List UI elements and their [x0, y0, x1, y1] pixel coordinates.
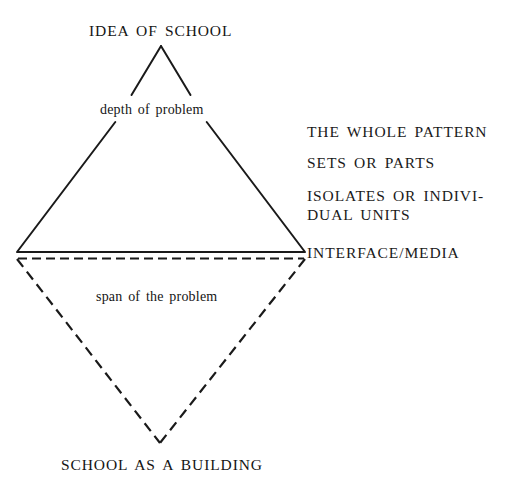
side-label-sets-or-parts: SETS OR PARTS: [307, 153, 435, 172]
triangle-right-side-lower: [207, 122, 305, 252]
side-label-line: INTERFACE/MEDIA: [307, 243, 460, 262]
side-label-interface-media: INTERFACE/MEDIA: [307, 243, 460, 262]
title-idea-of-school: IDEA OF SCHOOL: [89, 21, 232, 40]
side-label-isolates-individual-units: ISOLATES OR INDIVI- DUAL UNITS: [307, 186, 484, 224]
diamond-lower-right-edge-dashed: [160, 259, 305, 443]
label-span-of-problem: span of the problem: [92, 288, 221, 305]
side-label-line: SETS OR PARTS: [307, 153, 435, 172]
diamond-lower-left-edge-dashed: [17, 259, 160, 443]
title-school-as-building: SCHOOL AS A BUILDING: [61, 455, 263, 474]
side-label-line: DUAL UNITS: [307, 205, 484, 224]
triangle-left-side-lower: [17, 122, 115, 252]
triangle-right-side-upper: [161, 46, 191, 95]
side-label-line: ISOLATES OR INDIVI-: [307, 186, 484, 205]
triangle-left-side-upper: [132, 46, 162, 95]
label-depth-of-problem: depth of problem: [96, 101, 208, 118]
side-label-line: THE WHOLE PATTERN: [307, 122, 487, 141]
side-label-whole-pattern: THE WHOLE PATTERN: [307, 122, 487, 141]
